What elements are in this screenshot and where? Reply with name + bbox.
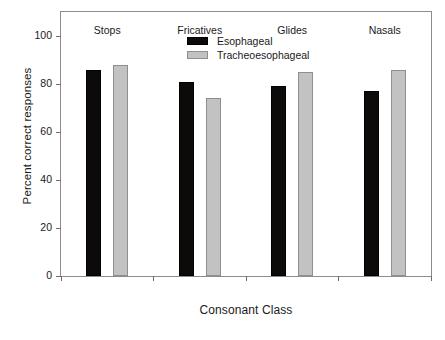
bar-glides-tracheoesophageal <box>298 72 313 276</box>
legend-label-tracheoesophageal: Tracheoesophageal <box>217 49 309 61</box>
y-tick-label: 20 <box>40 221 52 233</box>
x-tick-mark <box>153 276 154 281</box>
y-tick-label: 60 <box>40 125 52 137</box>
y-tick-mark <box>56 132 61 133</box>
legend-label-esophageal: Esophageal <box>217 35 272 47</box>
bar-glides-esophageal <box>271 86 286 276</box>
plot-area: 020406080100 StopsFricativesGlidesNasals… <box>60 11 432 277</box>
legend-swatch-icon-esophageal <box>187 37 208 45</box>
x-tick-mark <box>338 276 339 281</box>
y-tick-label: 100 <box>34 29 52 41</box>
x-tick-mark <box>246 276 247 281</box>
legend-item-tracheoesophageal: Tracheoesophageal <box>187 48 367 62</box>
x-axis-label-stops: Stops <box>57 24 157 36</box>
x-tick-mark <box>431 276 432 281</box>
y-tick-mark <box>56 84 61 85</box>
bar-stops-tracheoesophageal <box>113 65 128 276</box>
bar-nasals-esophageal <box>364 91 379 276</box>
bar-stops-esophageal <box>86 70 101 276</box>
bar-chart-figure: Percent correct responses 020406080100 S… <box>0 0 445 340</box>
x-tick-mark <box>61 276 62 281</box>
chart-legend: Esophageal Tracheoesophageal <box>187 34 367 62</box>
legend-item-esophageal: Esophageal <box>187 34 367 48</box>
bar-fricatives-esophageal <box>179 82 194 276</box>
y-axis-title: Percent correct responses <box>21 21 33 251</box>
y-tick-label: 0 <box>46 269 52 281</box>
x-axis-title: Consonant Class <box>60 303 432 317</box>
legend-swatch-icon-tracheoesophageal <box>187 51 208 59</box>
y-tick-label: 80 <box>40 77 52 89</box>
y-tick-label: 40 <box>40 173 52 185</box>
bar-nasals-tracheoesophageal <box>391 70 406 276</box>
bar-fricatives-tracheoesophageal <box>206 98 221 276</box>
y-tick-mark <box>56 180 61 181</box>
y-tick-mark <box>56 228 61 229</box>
